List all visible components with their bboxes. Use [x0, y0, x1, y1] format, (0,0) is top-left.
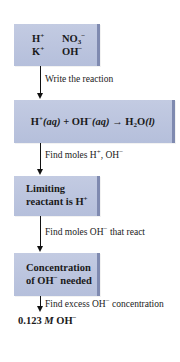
arrow-line-1	[40, 66, 41, 94]
step-label-write-reaction: Write the reaction	[45, 74, 113, 84]
arrow-down-icon	[37, 169, 43, 175]
limiting-line-2: reactant is H+	[26, 195, 97, 208]
limiting-line-1: Limiting	[26, 182, 97, 195]
step-label-moles-react: Find moles OH− that react	[45, 227, 145, 237]
arrow-line-2	[40, 143, 41, 170]
arrow-down-icon	[37, 306, 43, 312]
arrow-down-icon	[37, 93, 43, 99]
step-label-find-moles: Find moles H+, OH−	[45, 150, 123, 160]
reaction-equation: H+(aq) + OH−(aq) → H2O(l)	[31, 116, 155, 127]
reaction-box: H+(aq) + OH−(aq) → H2O(l)	[14, 100, 175, 143]
concentration-line-2: of OH− needed	[26, 274, 97, 287]
arrow-down-icon	[37, 246, 43, 252]
step-label-excess: Find excess OH− concentration	[45, 299, 164, 309]
ions-row-1: H+ NO3−	[32, 32, 97, 45]
ions-box: H+ NO3− K+ OH−	[14, 24, 100, 66]
ion-h: H+	[32, 32, 50, 45]
concentration-box: Concentration of OH− needed	[14, 253, 100, 296]
concentration-line-1: Concentration	[26, 261, 97, 274]
arrow-line-3	[40, 216, 41, 247]
ions-row-2: K+ OH−	[32, 45, 97, 58]
reaction-arrow-icon: →	[110, 116, 126, 127]
limiting-reactant-box: Limiting reactant is H+	[14, 176, 100, 216]
ion-nitrate: NO3−	[62, 32, 85, 45]
ion-k: K+	[32, 45, 50, 58]
ion-hydroxide: OH−	[62, 45, 82, 58]
result-concentration: 0.123 M OH−	[18, 315, 77, 326]
